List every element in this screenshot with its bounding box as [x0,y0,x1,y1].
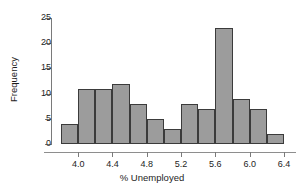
x-axis-tick [250,152,251,157]
x-axis-tick-label: 6.4 [269,159,299,169]
x-axis-tick [112,152,113,157]
y-axis-tick-label: 0 [31,139,51,148]
histogram-bar [61,124,78,144]
x-axis-tick [215,152,216,157]
x-axis-tick-label: 4.4 [97,159,127,169]
histogram-bar [233,99,250,144]
histogram-bar [267,134,284,144]
histogram-bar [181,104,198,144]
y-axis-tick-label: 5 [31,114,51,123]
x-axis-title: % Unemployed [0,172,304,183]
histogram-bar [95,89,112,144]
histogram-bar [112,84,129,144]
x-axis-tick-label: 5.2 [166,159,196,169]
x-axis-tick [147,152,148,157]
y-axis-line [51,18,52,145]
x-axis-tick-label: 4.8 [132,159,162,169]
y-axis-tick-label: 15 [31,63,51,72]
histogram-bar [147,119,164,144]
histogram-bar [130,104,147,144]
histogram-figure: 0510152025 4.04.44.85.25.66.06.4 Frequen… [0,0,304,193]
x-axis-tick [78,152,79,157]
x-axis-tick [181,152,182,157]
plot-area: 0510152025 4.04.44.85.25.66.06.4 Frequen… [0,0,304,193]
x-axis-tick [284,152,285,157]
histogram-bar [198,109,215,144]
histogram-bar [215,28,232,144]
x-axis-line [44,152,296,153]
x-axis-tick-label: 6.0 [235,159,265,169]
y-axis-tick-label: 20 [31,38,51,47]
x-axis-tick-label: 4.0 [63,159,93,169]
histogram-bar [78,89,95,144]
histogram-bar [164,129,181,144]
histogram-bar [250,109,267,144]
x-axis-tick-label: 5.6 [200,159,230,169]
y-axis-title: Frequency [8,45,19,115]
y-axis-tick-label: 25 [31,13,51,22]
y-axis-tick-label: 10 [31,89,51,98]
